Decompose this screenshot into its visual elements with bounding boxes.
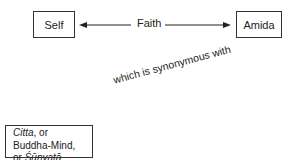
citta-term: Citta xyxy=(13,127,34,138)
citta-line-1: Citta, or xyxy=(13,127,92,140)
citta-line-1-rest: , or xyxy=(34,127,48,138)
self-label: Self xyxy=(45,19,64,31)
self-node: Self xyxy=(33,11,75,38)
citta-line-3: or Śūnyatā xyxy=(13,152,92,160)
sunyata-term: Śūnyatā xyxy=(25,152,62,160)
amida-label: Amida xyxy=(243,19,274,31)
faith-label: Faith xyxy=(134,17,164,29)
citta-node: Citta, or Buddha-Mind, or Śūnyatā xyxy=(5,125,93,158)
citta-line-2: Buddha-Mind, xyxy=(13,140,92,153)
citta-line-3-prefix: or xyxy=(13,152,25,160)
amida-node: Amida xyxy=(236,11,282,38)
